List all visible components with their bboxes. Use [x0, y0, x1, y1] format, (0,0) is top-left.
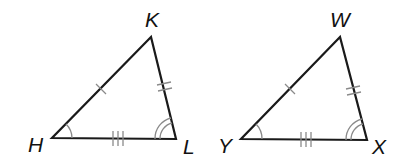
triangle-hkl-outline — [52, 37, 176, 139]
vertex-label-w: W — [330, 8, 352, 31]
vertex-label-y: Y — [218, 134, 234, 157]
triangle-hkl: K H L — [28, 8, 195, 158]
double-angle-arc-l — [155, 118, 172, 139]
congruent-triangles-diagram: K H L W Y X — [0, 0, 411, 165]
vertex-label-k: K — [145, 8, 160, 31]
vertex-label-l: L — [183, 135, 195, 158]
vertex-label-h: H — [28, 133, 44, 156]
double-angle-arc-x — [346, 119, 363, 140]
single-angle-arc-y — [256, 124, 262, 139]
single-angle-arc-h — [66, 124, 72, 138]
vertex-label-x: X — [371, 135, 387, 158]
triangle-ywx: W Y X — [218, 8, 387, 158]
double-tick-mark-kl — [157, 82, 172, 91]
